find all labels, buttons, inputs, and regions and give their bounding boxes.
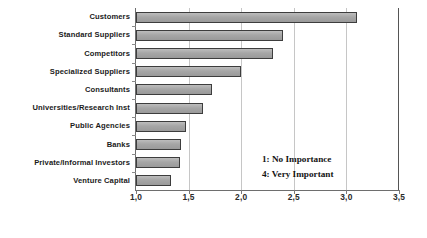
bar [136,48,273,59]
bar [136,175,171,186]
category-axis-label: Competitors [84,48,130,60]
category-axis-label: Customers [89,11,130,23]
category-tick [132,26,136,27]
legend-note: 1: No Importance4: Very Important [262,152,392,182]
category-axis-label: Venture Capital [73,175,130,187]
bar [136,30,283,41]
bar-chart: CustomersStandard SuppliersCompetitorsSp… [0,0,427,238]
category-axis-label: Consultants [85,84,130,96]
value-axis-tick-label: 1,5 [169,192,209,202]
value-axis-tick-label: 3,0 [326,192,366,202]
category-tick [132,117,136,118]
category-tick [132,63,136,64]
legend-note-line: 1: No Importance [262,152,392,167]
value-axis-tick-label: 2,5 [274,192,314,202]
category-axis-label: Specialized Suppliers [50,66,130,78]
plot-right-border [398,8,399,190]
category-axis-label: Standard Suppliers [59,29,130,41]
category-axis-label: Banks [107,139,130,151]
bar [136,139,181,150]
value-axis-tick-label: 1,0 [116,192,156,202]
value-axis-tick-labels: 1,01,52,02,53,03,5 [136,192,399,206]
bar [136,84,212,95]
value-axis-tick-label: 3,5 [379,192,419,202]
category-tick [132,81,136,82]
bar [136,66,241,77]
category-axis-labels: CustomersStandard SuppliersCompetitorsSp… [0,8,134,190]
category-tick [132,44,136,45]
value-axis-tick-label: 2,0 [221,192,261,202]
bar [136,121,186,132]
category-axis-label: Private/Informal Investors [34,157,130,169]
category-tick [132,135,136,136]
category-tick [132,99,136,100]
bar [136,103,203,114]
bar [136,157,180,168]
category-axis-label: Public Agencies [70,120,130,132]
category-axis-label: Universities/Research Inst [32,102,130,114]
category-tick [132,172,136,173]
legend-note-line: 4: Very Important [262,167,392,182]
category-tick [132,154,136,155]
value-axis-baseline [135,190,399,191]
bar [136,12,357,23]
